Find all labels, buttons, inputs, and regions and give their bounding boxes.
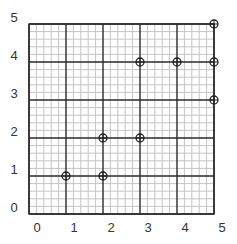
x-tick-label: 0 [33, 220, 40, 235]
data-point [210, 20, 218, 28]
major-grid [29, 24, 214, 214]
data-point [62, 172, 70, 180]
x-tick-label: 5 [218, 220, 225, 235]
data-point [173, 58, 181, 66]
y-tick-label: 3 [10, 86, 17, 101]
data-point [210, 96, 218, 104]
data-point [136, 58, 144, 66]
x-axis-ticks: 012345 [33, 220, 225, 235]
scatter-chart: 012345 012345 [0, 0, 237, 244]
x-tick-label: 4 [181, 220, 188, 235]
y-tick-label: 5 [10, 10, 17, 25]
plot-frame [29, 24, 214, 214]
x-tick-label: 3 [144, 220, 151, 235]
minor-grid [29, 24, 214, 214]
data-point [136, 134, 144, 142]
y-tick-label: 0 [10, 200, 17, 215]
y-tick-label: 2 [10, 124, 17, 139]
y-axis-ticks: 012345 [10, 10, 17, 215]
data-point [99, 172, 107, 180]
data-point [99, 134, 107, 142]
data-point [210, 58, 218, 66]
x-tick-label: 2 [107, 220, 114, 235]
y-tick-label: 4 [10, 48, 17, 63]
y-tick-label: 1 [10, 162, 17, 177]
x-tick-label: 1 [70, 220, 77, 235]
